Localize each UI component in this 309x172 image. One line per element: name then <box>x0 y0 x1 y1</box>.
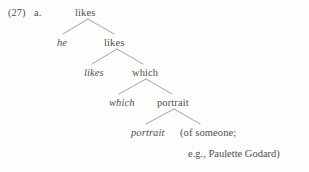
tree-node-n5: which <box>109 97 135 108</box>
example-letter: a. <box>34 7 41 18</box>
tree-node-n3: likes <box>84 67 104 78</box>
branch-b3-right <box>174 109 200 124</box>
tree-node-n4: which <box>132 67 158 78</box>
branch-b1-right <box>117 49 143 64</box>
branch-b0-left <box>63 19 88 34</box>
tree-node-n8: (of someone; <box>180 127 236 138</box>
tree-node-n0: likes <box>75 7 95 18</box>
example-figure: (27) a. likeshelikeslikeswhichwhichportr… <box>0 0 309 172</box>
example-number: (27) <box>8 7 26 18</box>
tree-node-n7: portrait <box>131 127 164 138</box>
tree-node-n6: portrait <box>157 97 189 108</box>
branch-b3-left <box>146 109 174 124</box>
branch-b2-left <box>119 79 146 94</box>
branch-b0-right <box>88 19 114 34</box>
branch-b1-left <box>92 49 117 64</box>
tree-branches <box>0 0 309 172</box>
parenthetical-continuation: e.g., Paulette Godard) <box>188 148 280 159</box>
branch-b2-right <box>146 79 172 94</box>
tree-node-n1: he <box>57 37 67 48</box>
tree-node-n2: likes <box>104 37 124 48</box>
